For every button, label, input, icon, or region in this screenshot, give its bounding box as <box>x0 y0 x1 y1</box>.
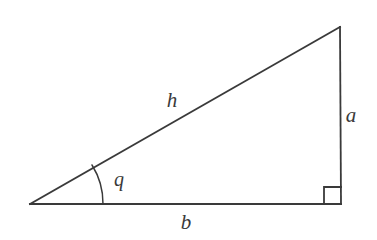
triangle-figure: h a b q <box>0 0 377 240</box>
hypotenuse-line-h <box>30 27 340 204</box>
right-angle-marker-icon <box>324 187 341 204</box>
adjacent-side-label: b <box>181 212 192 233</box>
opposite-side-label: a <box>346 105 357 126</box>
vertical-line-a <box>340 27 341 204</box>
triangle-drawing <box>0 0 377 240</box>
angle-label: q <box>114 169 124 189</box>
angle-arc-marker-icon <box>92 165 103 204</box>
hypotenuse-label: h <box>167 90 178 111</box>
